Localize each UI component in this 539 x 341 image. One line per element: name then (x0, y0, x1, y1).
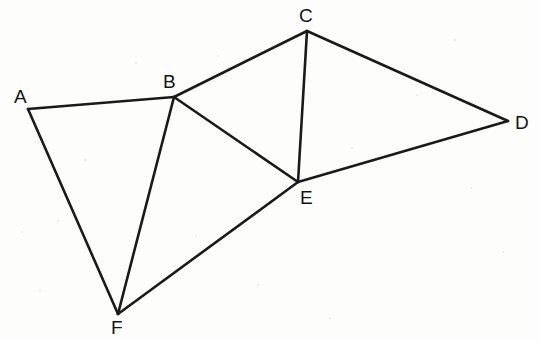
vertex-label-a: A (14, 87, 27, 106)
scan-speck (502, 251, 504, 253)
edges-group (28, 31, 508, 314)
edge-bc (174, 31, 307, 97)
edge-cd (307, 31, 508, 121)
vertex-label-d: D (515, 113, 529, 132)
edge-be (174, 97, 298, 182)
scan-speck (257, 284, 259, 286)
edge-ef (118, 182, 298, 314)
edge-ab (28, 97, 174, 109)
edge-ce (298, 31, 307, 182)
geometric-figure-canvas: ABCDEF (0, 0, 539, 341)
vertex-label-c: C (299, 6, 313, 25)
scan-speck (84, 159, 86, 161)
figure-svg (0, 0, 539, 341)
edge-bf (118, 97, 174, 314)
vertex-label-e: E (300, 188, 313, 207)
scan-speck (39, 290, 41, 292)
edge-de (298, 121, 508, 182)
edge-af (28, 109, 118, 314)
vertex-label-b: B (163, 72, 176, 91)
vertex-label-f: F (111, 318, 123, 337)
